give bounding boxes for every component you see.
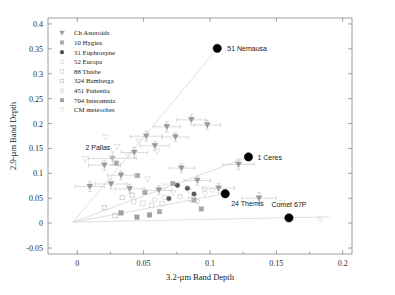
data-point	[82, 156, 88, 161]
data-point	[202, 192, 208, 197]
data-point	[60, 31, 65, 35]
y-tick-label: 0	[39, 219, 43, 228]
data-point	[162, 195, 167, 200]
data-point	[136, 139, 142, 144]
x-tick-label: 0.1	[205, 259, 215, 268]
data-point	[60, 60, 64, 64]
data-point	[166, 196, 171, 201]
data-point	[317, 217, 323, 222]
data-point	[135, 173, 140, 178]
legend-entry-label: 31 Euphrosyne	[74, 49, 115, 56]
x-tick-label: 0.15	[269, 259, 283, 268]
data-point	[119, 211, 124, 216]
y-tick-label: 0.25	[29, 95, 43, 104]
data-point	[143, 190, 148, 195]
data-point-label: 2 Pallas	[85, 144, 110, 151]
data-point	[60, 50, 64, 54]
data-point	[202, 186, 207, 191]
legend-entry-label: 88 Thisbe	[74, 68, 101, 75]
legend-entry-label: 451 Patientia	[74, 87, 110, 94]
chart-container: 00.050.10.150.2-0.0500.050.10.150.20.250…	[0, 0, 395, 295]
data-point	[145, 177, 151, 182]
y-axis-title: 2.9-µm Band Depth	[8, 101, 18, 170]
highlighted-data-point	[244, 153, 252, 161]
data-point	[60, 70, 64, 74]
y-tick-label: 0.15	[29, 144, 43, 153]
x-axis-title: 3.2-µm Band Depth	[166, 272, 235, 282]
scatter-plot: 00.050.10.150.2-0.0500.050.10.150.20.250…	[0, 0, 395, 295]
data-point	[114, 144, 120, 149]
data-point	[199, 207, 204, 212]
data-point	[153, 197, 158, 202]
legend-entry-label: 704 Interamnia	[74, 97, 115, 104]
data-point	[178, 194, 183, 199]
data-point	[185, 186, 190, 191]
data-point-label: 51 Nemausa	[227, 45, 267, 52]
x-tick-label: 0.2	[338, 259, 348, 268]
data-point	[60, 89, 64, 93]
highlighted-data-point	[285, 214, 293, 222]
highlighted-data-point	[213, 44, 221, 52]
x-tick-label: 0.05	[137, 259, 151, 268]
y-tick-label: 0.05	[29, 194, 43, 203]
data-point-label: 24 Themis	[231, 200, 264, 207]
legend-entry-label: 324 Bamberga	[74, 77, 114, 84]
data-point	[171, 181, 176, 186]
y-tick-label: 0.3	[33, 70, 43, 79]
y-tick-label: 0.35	[29, 45, 43, 54]
data-point	[102, 205, 107, 210]
data-point	[114, 161, 119, 166]
x-tick-label: 0	[75, 259, 79, 268]
data-point	[60, 79, 64, 83]
data-point	[175, 183, 180, 188]
legend-entry-label: 52 Europa	[74, 58, 102, 65]
data-point	[60, 98, 64, 102]
data-point	[192, 192, 197, 197]
legend-entry-label: 10 Hygiea	[74, 39, 102, 46]
data-point	[130, 193, 135, 198]
data-point	[60, 41, 64, 45]
highlighted-data-point	[221, 190, 229, 198]
legend-entry-label: CM meteorites	[74, 106, 115, 113]
data-point-label: Comet 67P	[271, 201, 306, 208]
y-tick-label: 0.4	[33, 20, 43, 29]
y-tick-label: -0.05	[26, 244, 43, 253]
y-tick-label: 0.2	[33, 120, 43, 129]
y-tick-label: 0.1	[33, 169, 43, 178]
data-point	[157, 209, 162, 214]
data-point	[135, 215, 140, 220]
legend-entry-label: Ch Asteroids	[74, 29, 110, 36]
data-point	[141, 201, 146, 206]
data-point	[60, 108, 65, 112]
data-point	[147, 213, 152, 218]
data-point	[120, 195, 125, 200]
data-point	[103, 135, 109, 140]
data-point	[170, 190, 176, 195]
data-point-label: 1 Ceres	[257, 154, 282, 161]
